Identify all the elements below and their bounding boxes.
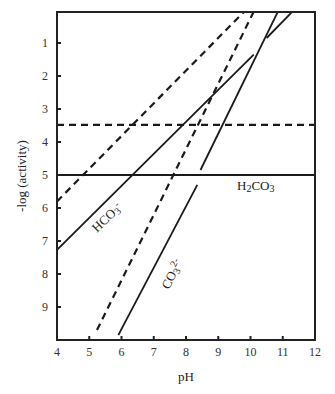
x-tick-label: 9: [215, 345, 221, 359]
x-tick-label: 4: [54, 345, 60, 359]
x-tick-label: 7: [151, 345, 157, 359]
series-line-4: [57, 12, 244, 202]
y-tick-label: 5: [42, 168, 48, 182]
label-co3: CO32-: [157, 256, 186, 292]
y-tick-label: 6: [42, 201, 48, 215]
label-hco3: HCO3-: [88, 199, 126, 236]
x-axis-title: pH: [178, 369, 194, 384]
x-tick-label: 11: [277, 345, 289, 359]
y-tick-label: 9: [42, 300, 48, 314]
y-tick-label: 1: [42, 36, 48, 50]
x-tick-label: 12: [309, 345, 321, 359]
plot-frame: [57, 12, 315, 340]
y-axis-ticks: 123456789: [42, 36, 61, 314]
y-tick-label: 7: [42, 234, 48, 248]
carbonate-speciation-chart: 456789101112 123456789 pH -log (activity…: [0, 0, 335, 394]
y-tick-label: 3: [42, 102, 48, 116]
x-tick-label: 6: [119, 345, 125, 359]
series-line-6: [201, 12, 278, 170]
x-tick-label: 8: [183, 345, 189, 359]
series-line-2: [57, 55, 254, 250]
plot-lines: [57, 12, 315, 335]
x-tick-label: 5: [86, 345, 92, 359]
y-tick-label: 8: [42, 267, 48, 281]
x-tick-label: 10: [245, 345, 257, 359]
y-tick-label: 4: [42, 135, 48, 149]
y-tick-label: 2: [42, 69, 48, 83]
y-axis-title: -log (activity): [14, 140, 29, 212]
label-h2co3: H2CO3: [237, 178, 274, 194]
